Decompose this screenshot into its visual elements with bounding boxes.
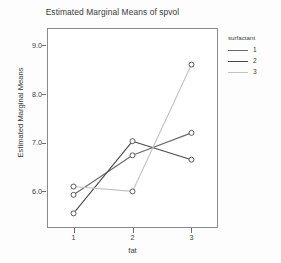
y-axis-tick-mark	[42, 143, 46, 144]
legend-line-swatch	[228, 50, 248, 51]
legend-title: surfactant	[228, 34, 280, 41]
legend-item-1[interactable]: 1	[228, 45, 280, 56]
legend-item-label: 1	[253, 47, 257, 54]
data-point	[71, 184, 76, 189]
data-point	[130, 189, 135, 194]
legend-item-3[interactable]: 3	[228, 67, 280, 78]
y-axis-tick-label: 9.0	[20, 41, 42, 50]
x-axis-tick-label: 1	[64, 233, 84, 242]
legend-line-swatch	[228, 72, 248, 73]
estimated-marginal-means-chart: Estimated Marginal Means of spvol Estima…	[0, 0, 281, 263]
data-point	[71, 192, 76, 197]
series-line-3	[74, 65, 192, 192]
legend-items: 123	[228, 45, 280, 78]
x-axis-title: fat	[47, 246, 218, 255]
legend-item-2[interactable]: 2	[228, 56, 280, 67]
data-point	[130, 153, 135, 158]
x-axis-tick-label: 3	[181, 233, 201, 242]
y-axis-tick-label: 8.0	[20, 90, 42, 99]
y-axis-tick-label: 6.0	[20, 187, 42, 196]
data-point	[71, 211, 76, 216]
legend-item-label: 2	[253, 58, 257, 65]
y-axis-tick-mark	[42, 94, 46, 95]
data-point	[189, 130, 194, 135]
plot-canvas	[47, 28, 218, 228]
legend-line-swatch	[228, 61, 248, 62]
series-3	[71, 62, 194, 194]
data-point	[189, 157, 194, 162]
series-2	[71, 139, 194, 216]
y-axis-tick-labels: 6.07.08.09.0	[18, 0, 42, 263]
x-axis-tick-label: 2	[123, 233, 143, 242]
legend-item-label: 3	[253, 69, 257, 76]
y-axis-tick-label: 7.0	[20, 138, 42, 147]
data-point	[189, 62, 194, 67]
series-line-2	[74, 141, 192, 213]
data-point	[130, 139, 135, 144]
legend: surfactant 123	[228, 34, 280, 78]
y-axis-tick-mark	[42, 45, 46, 46]
y-axis-tick-mark	[42, 191, 46, 192]
